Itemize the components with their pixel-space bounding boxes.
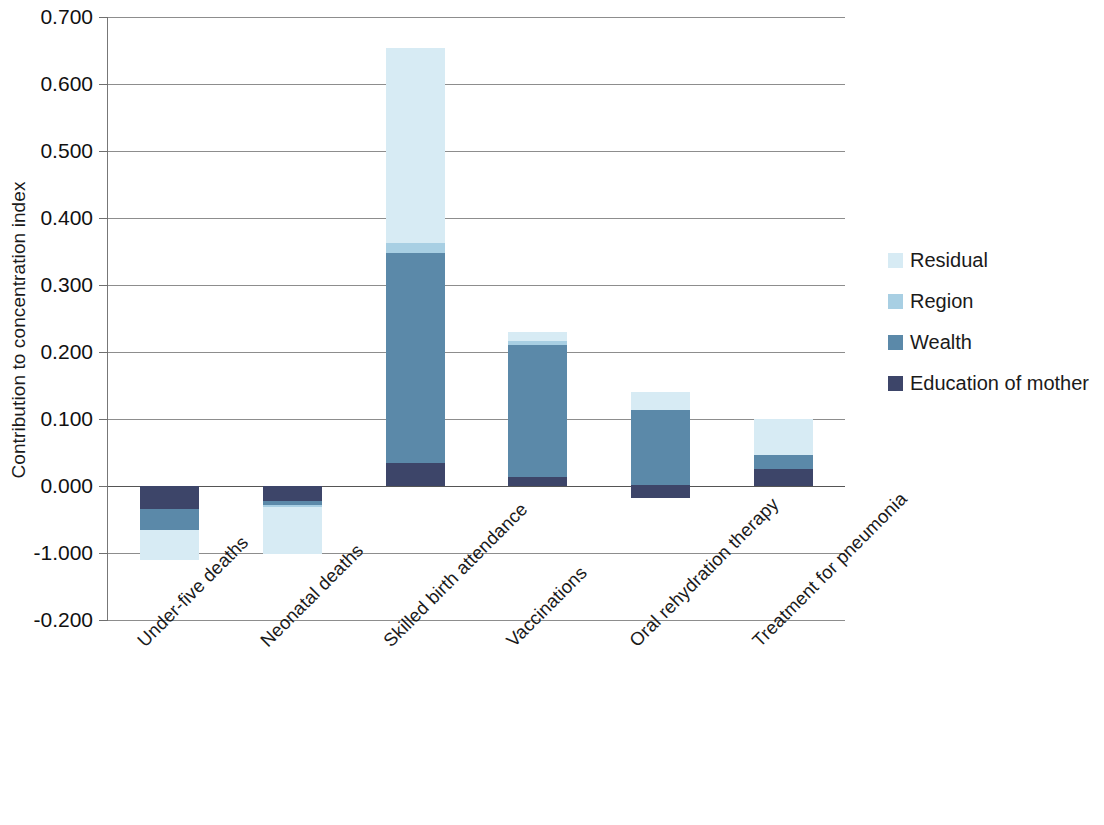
y-axis-tick-label: 0.600 <box>40 72 93 96</box>
y-axis-title: Contribution to concentration index <box>8 0 30 120</box>
bar-group[interactable] <box>631 17 690 620</box>
y-axis-tick <box>99 218 108 219</box>
legend-item[interactable]: Education of mother <box>888 363 1098 404</box>
bar-segment[interactable] <box>386 463 445 486</box>
y-axis-line <box>107 17 108 620</box>
bar-segment[interactable] <box>631 410 690 484</box>
bar-segment[interactable] <box>754 455 813 470</box>
bar-segment[interactable] <box>508 477 567 486</box>
bar-segment[interactable] <box>754 469 813 486</box>
legend-item[interactable]: Region <box>888 281 1098 322</box>
y-axis-tick-label: 0.400 <box>40 206 93 230</box>
legend-swatch-wealth <box>888 335 903 350</box>
bar-segment[interactable] <box>631 392 690 410</box>
y-axis-tick <box>99 17 108 18</box>
gridline <box>108 84 845 85</box>
y-axis-tick <box>99 84 108 85</box>
legend-item[interactable]: Residual <box>888 240 1098 281</box>
legend-swatch-education <box>888 376 903 391</box>
legend-item-label: Residual <box>910 249 988 272</box>
legend-swatch-residual <box>888 253 903 268</box>
y-axis-tick-label: 0.700 <box>40 5 93 29</box>
bar-group[interactable] <box>386 17 445 620</box>
y-axis-title-text: Contribution to concentration index <box>8 120 30 540</box>
bar-segment[interactable] <box>263 486 322 501</box>
y-axis-tick <box>99 486 108 487</box>
gridline <box>108 419 845 420</box>
y-axis-tick-label: 0.100 <box>40 407 93 431</box>
y-axis-tick-label: -1.000 <box>33 541 93 565</box>
bar-group[interactable] <box>263 17 322 620</box>
gridline <box>108 151 845 152</box>
bar-segment[interactable] <box>754 419 813 455</box>
bar-segment[interactable] <box>508 332 567 341</box>
bar-segment[interactable] <box>386 253 445 463</box>
legend-item[interactable]: Wealth <box>888 322 1098 363</box>
y-axis-tick-label: 0.200 <box>40 340 93 364</box>
bar-segment[interactable] <box>508 345 567 476</box>
gridline <box>108 486 845 487</box>
bar-group[interactable] <box>140 17 199 620</box>
gridline <box>108 352 845 353</box>
bar-segment[interactable] <box>508 341 567 345</box>
y-axis-tick <box>99 285 108 286</box>
bar-segment[interactable] <box>263 507 322 555</box>
y-axis-tick-label: -0.200 <box>33 608 93 632</box>
bar-segment[interactable] <box>140 509 199 530</box>
y-axis-tick-label: 0.300 <box>40 273 93 297</box>
y-axis-tick <box>99 419 108 420</box>
bar-group[interactable] <box>508 17 567 620</box>
legend-item-label: Education of mother <box>910 372 1089 395</box>
bar-segment[interactable] <box>386 48 445 244</box>
bar-segment[interactable] <box>386 243 445 252</box>
gridline <box>108 285 845 286</box>
legend-item-label: Region <box>910 290 973 313</box>
y-axis-tick <box>99 620 108 621</box>
bar-segment[interactable] <box>140 530 199 561</box>
y-axis-tick <box>99 151 108 152</box>
y-axis-tick-label: 0.500 <box>40 139 93 163</box>
legend: ResidualRegionWealthEducation of mother <box>888 240 1098 404</box>
gridline <box>108 17 845 18</box>
y-axis-tick <box>99 352 108 353</box>
chart-page: Contribution to concentration index 0.70… <box>0 0 1104 825</box>
gridline <box>108 620 845 621</box>
legend-swatch-region <box>888 294 903 309</box>
y-axis-tick-label: 0.000 <box>40 474 93 498</box>
legend-item-label: Wealth <box>910 331 972 354</box>
bar-group[interactable] <box>754 17 813 620</box>
bar-segment[interactable] <box>631 485 690 498</box>
bar-segment[interactable] <box>140 486 199 509</box>
gridline <box>108 218 845 219</box>
y-axis-tick <box>99 553 108 554</box>
